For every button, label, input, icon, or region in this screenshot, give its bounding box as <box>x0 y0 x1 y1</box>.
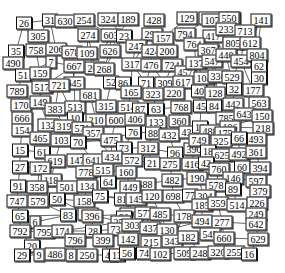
graph-node[interactable]: 76 <box>125 126 141 139</box>
graph-node[interactable]: 177 <box>243 84 264 97</box>
graph-node[interactable]: 721 <box>49 79 70 92</box>
graph-node[interactable]: 268 <box>94 63 115 76</box>
graph-node[interactable]: 747 <box>7 195 28 208</box>
graph-node[interactable]: 29 <box>14 249 30 262</box>
graph-node[interactable]: 494 <box>192 215 213 228</box>
graph-node[interactable]: 157 <box>153 32 174 45</box>
graph-node[interactable]: 394 <box>250 162 271 175</box>
graph-node[interactable]: 16 <box>241 248 257 261</box>
graph-node[interactable]: 626 <box>100 45 121 58</box>
graph-node[interactable]: 476 <box>141 59 162 72</box>
graph-node[interactable]: 65 <box>12 210 28 223</box>
graph-node[interactable]: 432 <box>159 129 180 142</box>
graph-node[interactable]: 482 <box>162 174 183 187</box>
graph-node[interactable]: 667 <box>64 60 85 73</box>
graph-node[interactable]: 159 <box>30 67 51 80</box>
graph-node[interactable]: 250 <box>77 249 98 262</box>
graph-node[interactable]: 8 <box>66 249 77 262</box>
graph-node[interactable]: 399 <box>93 234 114 247</box>
graph-node[interactable]: 182 <box>178 231 199 244</box>
graph-node[interactable]: 189 <box>118 13 139 26</box>
graph-node[interactable]: 796 <box>65 234 86 247</box>
graph-node[interactable]: 165 <box>121 86 142 99</box>
graph-node[interactable]: 323 <box>143 88 164 101</box>
graph-node[interactable]: 428 <box>144 14 165 27</box>
graph-node[interactable]: 514 <box>227 199 248 212</box>
graph-node[interactable]: 66 <box>231 132 247 145</box>
graph-node[interactable]: 359 <box>208 197 229 210</box>
graph-node[interactable]: 485 <box>150 208 171 221</box>
graph-node[interactable]: 102 <box>150 248 171 261</box>
graph-node[interactable]: 83 <box>60 209 76 222</box>
graph-node[interactable]: 274 <box>78 29 99 42</box>
graph-node[interactable]: 630 <box>55 15 76 28</box>
graph-node[interactable]: 142 <box>118 233 139 246</box>
graph-node[interactable]: 698 <box>163 190 184 203</box>
graph-node[interactable]: 789 <box>7 85 28 98</box>
graph-node[interactable]: 383 <box>45 103 66 116</box>
graph-node[interactable]: 792 <box>10 225 31 238</box>
graph-node[interactable]: 15 <box>12 144 28 157</box>
graph-node[interactable]: 358 <box>27 181 48 194</box>
graph-node[interactable]: 465 <box>30 132 51 145</box>
graph-node[interactable]: 629 <box>248 233 269 246</box>
graph-diagram: 2631630254324189428129423544107550141305… <box>0 0 285 273</box>
graph-node[interactable]: 9 <box>34 249 45 262</box>
graph-node[interactable]: 361 <box>246 146 267 159</box>
graph-node[interactable]: 486 <box>45 248 66 261</box>
graph-node[interactable]: 768 <box>171 101 192 114</box>
graph-node[interactable]: 233 <box>216 23 237 36</box>
graph-node[interactable]: 305 <box>28 30 49 43</box>
graph-node[interactable]: 32 <box>226 83 242 96</box>
graph-node[interactable]: 493 <box>246 133 267 146</box>
graph-node[interactable]: 190 <box>187 172 208 185</box>
graph-node[interactable]: 220 <box>164 87 185 100</box>
graph-node[interactable]: 254 <box>74 14 95 27</box>
graph-node[interactable]: 396 <box>82 210 103 223</box>
graph-node[interactable]: 642 <box>246 218 267 231</box>
graph-node[interactable]: 434 <box>102 151 123 164</box>
graph-node[interactable]: 129 <box>177 12 198 25</box>
graph-node[interactable]: 109 <box>77 47 98 60</box>
graph-node[interactable]: 275 <box>160 158 181 171</box>
graph-node[interactable]: 600 <box>106 114 127 127</box>
graph-node[interactable]: 317 <box>122 58 143 71</box>
graph-node[interactable]: 160 <box>116 166 137 179</box>
graph-node[interactable]: 89 <box>225 183 241 196</box>
graph-node[interactable]: 103 <box>51 134 72 147</box>
graph-node[interactable]: 50 <box>49 193 65 206</box>
graph-node[interactable]: 26 <box>16 17 32 30</box>
graph-node[interactable]: 579 <box>28 195 49 208</box>
graph-node[interactable]: 21 <box>144 157 160 170</box>
graph-node[interactable]: 56 <box>119 247 135 260</box>
graph-node[interactable]: 406 <box>125 113 146 126</box>
graph-node[interactable]: 758 <box>26 44 47 57</box>
graph-node[interactable]: 170 <box>11 99 32 112</box>
graph-node[interactable]: 120 <box>142 190 163 203</box>
graph-node[interactable]: 75 <box>92 190 108 203</box>
graph-node[interactable]: 64 <box>100 176 116 189</box>
graph-node[interactable]: 27 <box>12 161 28 174</box>
graph-node[interactable]: 91 <box>10 180 26 193</box>
graph-node[interactable]: 660 <box>214 232 235 245</box>
graph-node[interactable]: 315 <box>96 100 117 113</box>
graph-node[interactable]: 70 <box>70 136 86 149</box>
graph-node[interactable]: 200 <box>157 45 178 58</box>
graph-node[interactable]: 324 <box>98 13 119 26</box>
graph-node[interactable]: 63 <box>148 103 164 116</box>
